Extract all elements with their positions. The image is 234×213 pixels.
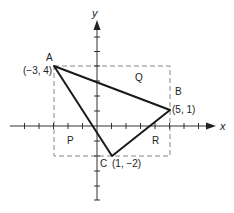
region-p-label: P [67,135,74,146]
y-axis-arrow-icon [94,20,101,30]
point-a-coord: (−3, 4) [23,65,52,76]
triangle-diagram: y x A (−3, 4) B (5, 1) C (1, −2) P Q R [0,0,234,213]
x-axis-label: x [219,120,226,132]
y-axis-label: y [91,7,99,19]
point-c-label: C [100,158,107,169]
point-b-label: B [175,86,182,97]
region-r-label: R [152,135,159,146]
x-axis-arrow-icon [206,123,216,130]
point-c-coord: (1, −2) [112,158,141,169]
point-b-coord: (5, 1) [172,104,195,115]
point-a-label: A [46,52,53,63]
region-q-label: Q [135,72,143,83]
